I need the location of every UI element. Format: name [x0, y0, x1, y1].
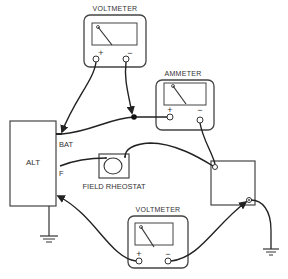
field-rheostat-label: FIELD RHEOSTAT [82, 182, 145, 191]
rheostat-dial-icon [104, 158, 122, 174]
wire-ammeter-to-battery [200, 123, 215, 164]
terminal-plus-icon [93, 56, 99, 62]
ground-icon [40, 236, 58, 242]
terminal-plus-icon [167, 114, 173, 120]
wire-voltmeter-minus-to-junction [125, 62, 132, 113]
terminal-plus-icon [136, 258, 142, 264]
alternator: ALT BAT F [10, 121, 73, 242]
field-rheostat: FIELD RHEOSTAT [82, 154, 145, 191]
wire-voltmeter-plus-to-bat [62, 62, 96, 132]
terminal-minus-icon [165, 258, 171, 264]
ground-icon [263, 249, 279, 255]
battery-positive-terminal-icon [213, 165, 218, 170]
needle-icon [141, 227, 154, 247]
ammeter-label: AMMETER [164, 70, 201, 77]
voltmeter-bottom-label: VOLTMETER [136, 206, 181, 213]
voltmeter-top: VOLTMETER + − [84, 5, 146, 67]
terminal-minus-icon [123, 56, 129, 62]
wire-voltmeter-minus-to-battery [171, 202, 246, 261]
needle-icon [98, 27, 112, 45]
wire-rheostat-to-battery [125, 143, 213, 166]
wire-bat-to-ammeter [62, 117, 167, 134]
terminal-f-label: F [59, 169, 64, 178]
battery-box [211, 161, 279, 255]
junction-dot-icon [131, 114, 137, 120]
wire-voltmeter-plus-to-alt [58, 196, 136, 261]
needle-icon [173, 86, 186, 104]
terminal-bat-label: BAT [59, 140, 73, 149]
voltmeter-top-plus: + [98, 48, 103, 58]
ammeter: AMMETER + − [156, 70, 214, 130]
voltmeter-top-label: VOLTMETER [93, 5, 138, 12]
wiring-diagram: VOLTMETER + − AMMETER + − ALT BAT F [0, 0, 288, 279]
alternator-label: ALT [26, 158, 40, 167]
terminal-minus-icon [197, 117, 203, 123]
ammeter-minus: − [197, 105, 202, 115]
